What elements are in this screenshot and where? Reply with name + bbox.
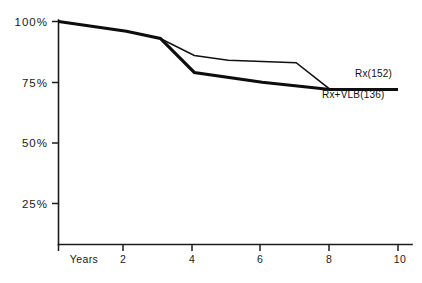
x-axis-ticks xyxy=(59,245,399,252)
y-tick-label-75: 75% xyxy=(22,77,48,89)
series-label-rx-vlb: Rx+VLB(136) xyxy=(322,89,385,100)
y-tick-label-100: 100% xyxy=(15,16,48,28)
series-line-rx-vlb xyxy=(59,22,399,90)
y-tick-label-50: 50% xyxy=(22,137,48,149)
x-tick-label-10: 10 xyxy=(394,253,406,265)
x-tick-label-6: 6 xyxy=(257,253,263,265)
x-tick-label-4: 4 xyxy=(189,253,195,265)
series-label-rx: Rx(152) xyxy=(355,68,392,79)
chart-plot-area: 100% 75% 50% 25% Years 2 4 6 8 10 Rx(152… xyxy=(0,0,422,283)
x-tick-label-2: 2 xyxy=(120,253,126,265)
y-tick-label-25: 25% xyxy=(22,198,48,210)
x-tick-label-8: 8 xyxy=(326,253,332,265)
series-line-rx xyxy=(59,22,399,90)
y-axis-ticks xyxy=(52,22,59,204)
survival-curve-chart: 100% 75% 50% 25% Years 2 4 6 8 10 Rx(152… xyxy=(0,0,422,283)
x-axis-title-years: Years xyxy=(70,253,98,265)
